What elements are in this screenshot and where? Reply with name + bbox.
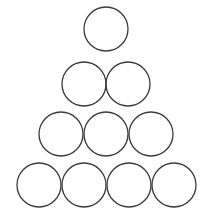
circle-r2-c1: [62, 62, 106, 106]
circle-r4-c3: [107, 163, 151, 207]
circle-arrangement-figure: [0, 0, 213, 217]
circle-r3-c1: [39, 112, 83, 156]
circle-r2-c2: [106, 62, 150, 106]
circle-r4-c2: [62, 163, 106, 207]
circle-r3-c3: [129, 112, 173, 156]
circle-r4-c1: [17, 163, 61, 207]
circle-r3-c2: [84, 112, 128, 156]
circle-group: [17, 7, 196, 207]
figure-canvas: [0, 0, 213, 217]
circle-r1-c1: [84, 7, 128, 51]
circle-r4-c4: [152, 163, 196, 207]
